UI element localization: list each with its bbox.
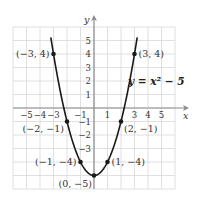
data-point bbox=[119, 119, 124, 124]
y-tick-label: 1 bbox=[86, 90, 91, 100]
x-tick-label: 3 bbox=[132, 110, 137, 120]
data-point bbox=[51, 52, 56, 57]
point-label: (1, −4) bbox=[112, 156, 146, 167]
x-tick-label: 4 bbox=[145, 110, 150, 120]
x-tick-label: −3 bbox=[47, 110, 60, 120]
point-label: (−2, −1) bbox=[23, 123, 64, 134]
y-tick-label: −2 bbox=[78, 130, 91, 140]
x-tick-label: 5 bbox=[159, 110, 164, 120]
point-label: (−1, −4) bbox=[35, 156, 76, 167]
point-label: (0, −5) bbox=[58, 178, 92, 189]
point-label: (3, 4) bbox=[139, 48, 165, 59]
y-tick-label: 2 bbox=[86, 76, 91, 86]
data-point bbox=[78, 160, 83, 165]
y-axis-label: y bbox=[83, 14, 90, 25]
data-point bbox=[92, 173, 97, 178]
parabola-chart: xy −5−4−3−1134554321−1−2−3 (−3, 4)(3, 4)… bbox=[0, 0, 200, 203]
y-tick-label: 4 bbox=[86, 49, 91, 59]
y-tick-label: 5 bbox=[86, 36, 91, 46]
data-point bbox=[65, 119, 70, 124]
x-tick-label: 1 bbox=[105, 110, 110, 120]
y-tick-label: −3 bbox=[78, 144, 91, 154]
point-label: (2, −1) bbox=[124, 123, 158, 134]
y-tick-label: −1 bbox=[78, 117, 91, 127]
data-point bbox=[105, 160, 110, 165]
point-label: (−3, 4) bbox=[16, 48, 50, 59]
data-point bbox=[132, 52, 137, 57]
x-tick-label: −5 bbox=[20, 110, 33, 120]
equation-label: y = x² − 5 bbox=[127, 75, 184, 87]
x-tick-label: −4 bbox=[34, 110, 47, 120]
x-axis-label: x bbox=[183, 110, 189, 121]
y-tick-label: 3 bbox=[86, 63, 91, 73]
